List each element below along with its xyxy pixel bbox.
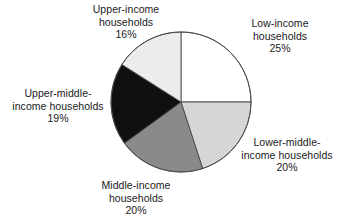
pie-label-low-income-value: 25% bbox=[228, 42, 332, 55]
pie-label-upper-middle-income: Upper-middle- income households 19% bbox=[2, 87, 114, 125]
pie-label-upper-income-line1: Upper-income bbox=[72, 3, 180, 16]
pie-label-lower-middle-income-line1: Lower-middle- bbox=[232, 136, 342, 149]
pie-label-middle-income-value: 20% bbox=[84, 204, 188, 217]
pie-label-low-income: Low-income households 25% bbox=[228, 17, 332, 55]
pie-label-upper-middle-income-line2: income households bbox=[2, 100, 114, 113]
pie-label-middle-income-line2: households bbox=[84, 192, 188, 205]
pie-label-lower-middle-income-value: 20% bbox=[232, 161, 342, 174]
pie-label-upper-middle-income-line1: Upper-middle- bbox=[2, 87, 114, 100]
pie-label-low-income-line2: households bbox=[228, 30, 332, 43]
pie-label-middle-income-line1: Middle-income bbox=[84, 179, 188, 192]
pie-label-upper-middle-income-value: 19% bbox=[2, 112, 114, 125]
pie-chart-figure: Upper-income households 16% Low-income h… bbox=[0, 0, 343, 223]
pie-label-low-income-line1: Low-income bbox=[228, 17, 332, 30]
pie-label-upper-income-line2: households bbox=[72, 16, 180, 29]
pie-label-upper-income-value: 16% bbox=[72, 28, 180, 41]
pie-label-lower-middle-income: Lower-middle- income households 20% bbox=[232, 136, 342, 174]
pie-label-upper-income: Upper-income households 16% bbox=[72, 3, 180, 41]
pie-label-middle-income: Middle-income households 20% bbox=[84, 179, 188, 217]
pie-label-lower-middle-income-line2: income households bbox=[232, 149, 342, 162]
